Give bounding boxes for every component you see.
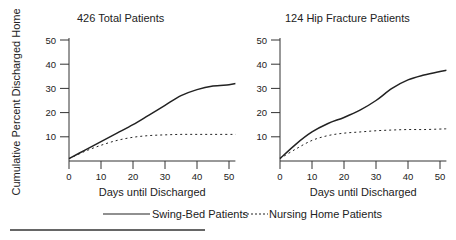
x-tick-label: 0 [66,171,71,182]
y-axis-label: Cumulative Percent Discharged Home [10,8,22,195]
y-tick-label: 30 [45,83,56,94]
y-axis-label-text: Cumulative Percent Discharged Home [10,8,22,195]
x-tick-label: 20 [339,171,350,182]
x-tick-label: 20 [128,171,139,182]
x-tick-label: 40 [192,171,203,182]
series-swing-bed-line [280,70,446,158]
panel-total-patients: 426 Total Patients102030405001020304050D… [45,12,235,198]
x-tick-label: 10 [96,171,107,182]
series-nursing-home-line [69,134,235,158]
x-tick-label: 30 [371,171,382,182]
x-tick-label: 50 [435,171,446,182]
chart-figure: Cumulative Percent Discharged Home 426 T… [0,0,456,240]
x-tick-label: 50 [224,171,235,182]
y-tick-label: 10 [45,131,56,142]
y-tick-label: 20 [256,107,267,118]
y-tick-label: 20 [45,107,56,118]
x-axis-label: Days until Discharged [310,186,417,198]
x-tick-label: 0 [277,171,282,182]
x-tick-label: 40 [403,171,414,182]
x-tick-label: 30 [160,171,171,182]
y-tick-label: 40 [256,59,267,70]
panel-hip-fracture-patients: 124 Hip Fracture Patients102030405001020… [256,12,446,198]
legend-dotted-label: Nursing Home Patients [269,208,383,220]
y-tick-label: 30 [256,83,267,94]
series-nursing-home-line [280,129,446,159]
y-tick-label: 50 [256,35,267,46]
panel-title: 124 Hip Fracture Patients [285,12,410,24]
y-tick-label: 40 [45,59,56,70]
series-swing-bed-line [69,84,235,159]
x-axis-label: Days until Discharged [99,186,206,198]
legend: Swing-Bed Patients Nursing Home Patients [103,208,383,220]
y-tick-label: 10 [256,131,267,142]
legend-solid-label: Swing-Bed Patients [152,208,248,220]
x-tick-label: 10 [307,171,318,182]
panel-title: 426 Total Patients [77,12,165,24]
y-tick-label: 50 [45,35,56,46]
